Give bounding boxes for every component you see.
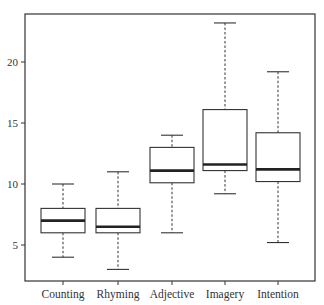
box-imagery (203, 23, 247, 194)
y-tick-label: 10 (7, 178, 19, 190)
iqr-box (96, 208, 140, 232)
y-axis: 5101520 (7, 56, 25, 251)
x-category-label: Intention (257, 288, 299, 300)
iqr-box (150, 147, 194, 182)
box-counting (41, 184, 85, 257)
x-category-label: Counting (42, 288, 85, 301)
iqr-box (203, 110, 247, 171)
x-category-label: Rhyming (97, 288, 140, 301)
boxes (41, 23, 300, 269)
x-category-label: Adjective (150, 288, 195, 301)
box-adjective (150, 135, 194, 233)
x-category-label: Imagery (206, 288, 245, 301)
box-rhyming (96, 172, 140, 270)
y-tick-label: 5 (13, 239, 19, 251)
box-intention (256, 72, 300, 243)
x-axis: CountingRhymingAdjectiveImageryIntention (42, 281, 299, 301)
y-tick-label: 20 (7, 56, 19, 68)
box-plot: 5101520 CountingRhymingAdjectiveImageryI… (0, 0, 324, 305)
y-tick-label: 15 (7, 117, 19, 129)
iqr-box (256, 133, 300, 182)
